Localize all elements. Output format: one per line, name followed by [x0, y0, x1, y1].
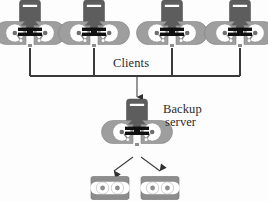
backup-server-label: Backup server	[163, 103, 202, 129]
client-workstation-3[interactable]	[137, 0, 208, 47]
server-to-tape-1	[114, 157, 133, 171]
client-workstation-1[interactable]	[0, 0, 66, 47]
tape-library-group	[90, 177, 179, 200]
client-workstation-2[interactable]	[59, 0, 130, 47]
diagram-canvas: Clients Backup server	[0, 0, 268, 202]
server-to-tape-2	[141, 157, 160, 171]
backup-server-group	[102, 99, 173, 146]
client-workstation-4[interactable]	[205, 0, 269, 47]
backup-topology-diagram	[0, 0, 268, 202]
backup-server-label-line1: Backup	[163, 102, 202, 116]
tape-cartridge-1[interactable]	[90, 177, 129, 200]
backup-server-label-line2: server	[163, 116, 202, 129]
clients-group	[0, 0, 268, 47]
clients-label: Clients	[110, 57, 152, 70]
tape-cartridge-2[interactable]	[140, 177, 179, 200]
server-to-tape-links	[114, 157, 160, 171]
backup-server-icon[interactable]	[102, 99, 173, 146]
